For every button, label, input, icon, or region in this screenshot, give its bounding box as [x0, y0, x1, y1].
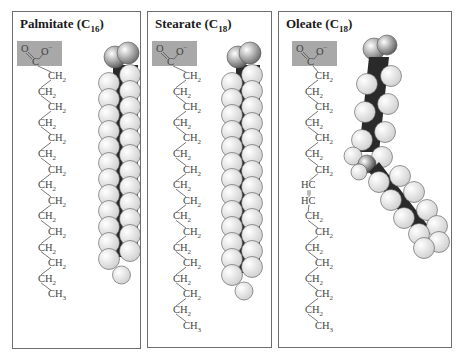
chain-group-ch2: CH2: [48, 164, 66, 180]
chain-group-ch2: CH2: [48, 70, 66, 86]
panel-stearate: Stearate (C18) OO−CCH2CH2CH2CH2CH2CH2CH2…: [147, 11, 272, 348]
chain-group-hc: HC: [301, 179, 316, 190]
chain-group-ch2: CH2: [173, 304, 191, 320]
chain-group-ch2: CH2: [183, 195, 201, 211]
chain-group-ch2: CH2: [183, 132, 201, 148]
chain-group-ch2: CH2: [38, 148, 56, 164]
chain-group-ch2: CH2: [305, 210, 323, 226]
chain-group-ch2: CH2: [315, 288, 333, 304]
chain-group-ch2: CH2: [38, 179, 56, 195]
bond-lines: [13, 12, 140, 348]
chain-group-ch2: CH2: [183, 70, 201, 86]
chain-group-ch2: CH2: [38, 117, 56, 133]
chain-group-ch2: CH2: [38, 86, 56, 102]
chain-group-ch2: CH2: [173, 273, 191, 289]
chain-group-ch2: CH2: [173, 179, 191, 195]
chain-group-ch2: CH2: [315, 164, 333, 180]
chain-group-ch2: CH2: [183, 257, 201, 273]
chain-group-ch2: CH2: [173, 210, 191, 226]
chain-group-ch3: CH3: [183, 320, 201, 336]
chain-group-ch2: CH2: [173, 242, 191, 258]
chain-group-ch2: CH2: [173, 86, 191, 102]
chain-group-ch2: CH2: [183, 226, 201, 242]
chain-group-ch2: CH2: [305, 117, 323, 133]
chain-group-ch2: CH2: [305, 304, 323, 320]
chain-group-ch3: CH3: [315, 320, 333, 336]
chain-group-ch2: CH2: [305, 242, 323, 258]
panel-oleate: Oleate (C18) OO−CCH2CH2CH2CH2CH2CH2CH2HC…: [278, 11, 452, 348]
chain-group-ch2: CH2: [173, 117, 191, 133]
chain-group-ch3: CH3: [48, 288, 66, 304]
chain-group-ch2: CH2: [315, 70, 333, 86]
chain-group-ch2: CH2: [305, 86, 323, 102]
chain-group-ch2: CH2: [38, 273, 56, 289]
chain-group-ch2: CH2: [183, 101, 201, 117]
chain-group-ch2: CH2: [315, 226, 333, 242]
chain-group-ch2: CH2: [315, 101, 333, 117]
panel-palmitate: Palmitate (C16) OO−CCH2CH2CH2CH2CH2CH2CH…: [12, 11, 141, 349]
chain-group-ch2: CH2: [48, 226, 66, 242]
chain-group-hc: HC: [301, 195, 316, 206]
bond-lines: [148, 12, 271, 347]
chain-group-ch2: CH2: [48, 101, 66, 117]
chain-group-ch2: CH2: [48, 195, 66, 211]
chain-group-ch2: CH2: [315, 257, 333, 273]
chain-group-ch2: CH2: [38, 242, 56, 258]
chain-group-ch2: CH2: [183, 164, 201, 180]
chain-group-ch2: CH2: [305, 148, 323, 164]
chain-group-ch2: CH2: [183, 288, 201, 304]
chain-group-ch2: CH2: [48, 257, 66, 273]
chain-group-ch2: CH2: [38, 210, 56, 226]
chain-group-ch2: CH2: [48, 132, 66, 148]
chain-group-ch2: CH2: [315, 132, 333, 148]
chain-group-ch2: CH2: [173, 148, 191, 164]
chain-group-ch2: CH2: [305, 273, 323, 289]
